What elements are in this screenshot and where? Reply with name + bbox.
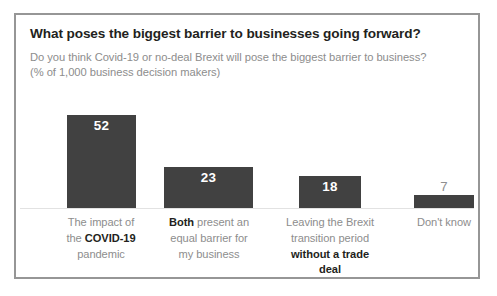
category-label: The impact ofthe COVID-19pandemic (42, 215, 160, 262)
category-label-text: Leaving the Brexit (286, 216, 374, 228)
category-label-text: present an (194, 216, 249, 228)
category-label-line: my business (160, 247, 258, 263)
bar-value-label: 7 (414, 179, 474, 194)
category-label: Both present anequal barrier formy busin… (160, 215, 258, 262)
chart-title: What poses the biggest barrier to busine… (30, 26, 460, 41)
category-label-text: pandemic (77, 248, 125, 260)
category-label-line: Don't know (400, 215, 488, 231)
category-label-emphasis: Both (169, 216, 194, 228)
category-label-text: my business (178, 248, 239, 260)
category-label-text: Don't know (417, 216, 471, 228)
category-label-text: equal barrier for (170, 232, 247, 244)
chart-subtitle-line-2: (% of 1,000 business decision makers) (30, 65, 470, 80)
category-label: Don't know (400, 215, 488, 231)
chart-subtitle: Do you think Covid-19 or no-deal Brexit … (30, 50, 470, 80)
bar-value-label: 23 (164, 170, 253, 185)
bar: 18 (299, 176, 361, 208)
category-label-emphasis: COVID-19 (85, 232, 136, 244)
category-label-text: The impact of (68, 216, 135, 228)
category-label-line: The impact of (42, 215, 160, 231)
category-label: Leaving the Brexittransition periodwitho… (284, 215, 376, 278)
category-label-line: without a trade deal (284, 247, 376, 279)
category-label-line: the COVID-19 (42, 231, 160, 247)
category-label-text: transition period (291, 232, 369, 244)
axis-baseline (20, 208, 474, 209)
bar: 52 (67, 115, 136, 208)
category-label-line: transition period (284, 231, 376, 247)
chart-screenshot: What poses the biggest barrier to busine… (0, 0, 497, 296)
category-label-text: the (66, 232, 84, 244)
category-label-line: equal barrier for (160, 231, 258, 247)
category-label-emphasis: without a trade deal (291, 248, 369, 276)
bar-value-label: 52 (67, 118, 136, 133)
bar: 23 (164, 167, 253, 208)
category-label-line: Both present an (160, 215, 258, 231)
bar-value-label: 18 (299, 179, 361, 194)
category-label-line: pandemic (42, 247, 160, 263)
chart-card: What poses the biggest barrier to busine… (14, 13, 480, 279)
bar (414, 195, 474, 208)
chart-subtitle-line-1: Do you think Covid-19 or no-deal Brexit … (30, 50, 470, 65)
category-label-line: Leaving the Brexit (284, 215, 376, 231)
bar-chart-plot: 5223187 The impact ofthe COVID-19pandemi… (16, 87, 478, 277)
